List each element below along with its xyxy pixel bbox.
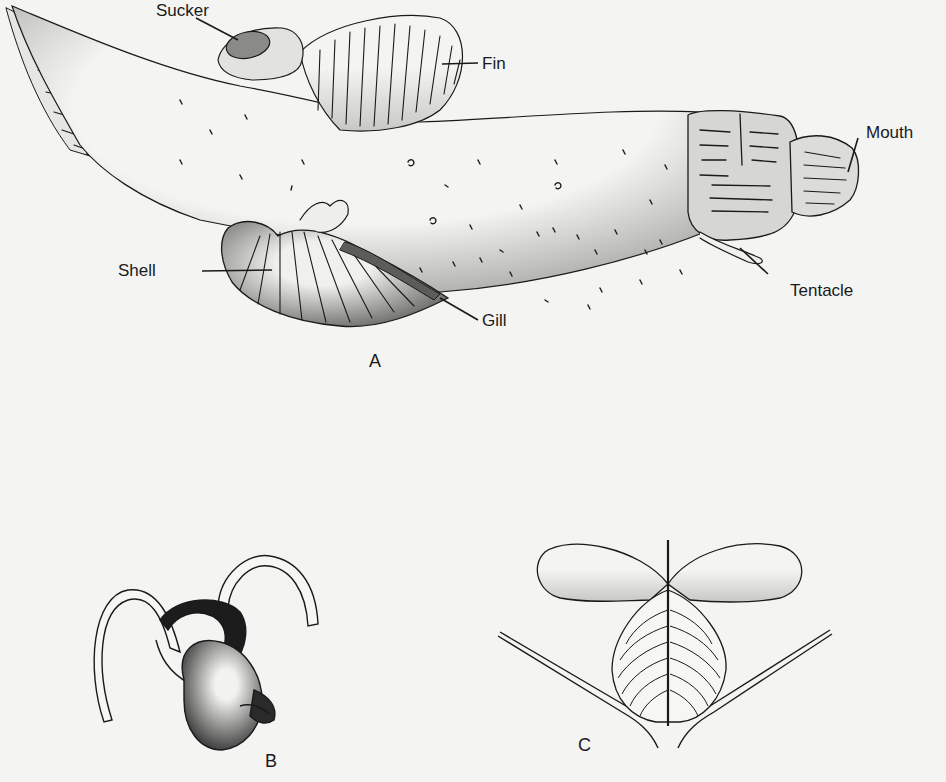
anatomical-figure: Sucker Fin Mouth Tentacle Shell Gill A B… (0, 0, 946, 782)
label-shell: Shell (118, 262, 156, 279)
left-wing-lobe (537, 544, 668, 601)
panel-letter-b: B (265, 752, 277, 770)
label-mouth: Mouth (866, 124, 913, 141)
panel-letter-c: C (578, 736, 591, 754)
shell-body (182, 641, 262, 750)
right-wing-lobe (668, 544, 802, 602)
label-gill: Gill (482, 312, 507, 329)
label-tentacle: Tentacle (790, 282, 853, 299)
label-sucker: Sucker (156, 2, 209, 19)
shell-spire (250, 690, 275, 723)
figure-drawing (0, 0, 946, 782)
label-fin: Fin (482, 55, 506, 72)
panel-letter-a: A (369, 352, 381, 370)
panel-c-drawing (498, 540, 832, 748)
panel-b-drawing (94, 556, 318, 750)
